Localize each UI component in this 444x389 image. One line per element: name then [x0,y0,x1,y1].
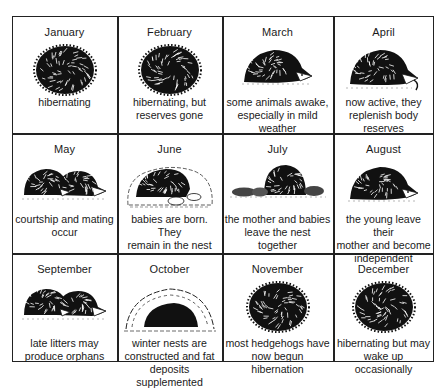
description-line: occur [14,226,115,239]
hedgehog-side-icon [222,44,333,90]
description-line: hibernating but may [335,337,432,350]
month-label: December [333,263,434,275]
description-line: the mother and babies [224,213,331,226]
two-hedgehogs-icon [12,281,117,325]
month-cell-september: September late litters mayproduce orphan… [12,253,117,362]
description-line: mother and become [335,239,432,252]
month-cell-december: December hibernating but maywake up occa… [333,253,434,362]
month-description: hibernating, butreserves gone [119,96,220,122]
month-cell-october: October winter nests areconstructed and … [117,253,222,362]
month-cell-february: February hibernating, butreserves gone [117,16,222,133]
description-line: produce orphans [14,350,115,363]
description-line: winter nests are [119,337,220,350]
description-line: hibernating, but [119,96,220,109]
month-description: courtship and matingoccur [14,213,115,239]
month-label: June [117,143,222,155]
curled-hedgehog-icon [12,44,117,96]
description-line: most hedgehogs have [224,337,331,350]
description-line: some animals awake, [224,96,331,109]
month-cell-april: April now active, theyreplenish bodyrese… [333,16,434,133]
description-line: constructed and fat [119,350,220,363]
month-label: May [12,143,117,155]
month-cell-november: November most hedgehogs havenow begun hi… [222,253,333,362]
month-description: some animals awake,especially in mildwea… [224,96,331,135]
two-hedgehogs-icon [12,161,117,205]
month-label: April [333,26,434,38]
month-description: now active, theyreplenish bodyreserves [335,96,432,135]
month-description: hibernating [14,96,115,109]
month-description: late litters mayproduce orphans [14,337,115,363]
month-description: most hedgehogs havenow begun hibernation [224,337,331,376]
hedgehog-family-icon [222,161,333,205]
month-cell-august: August the young leave theirmother and b… [333,133,434,253]
description-line: deposits supplemented [119,363,220,389]
month-cell-march: March some animals awake,especially in m… [222,16,333,133]
month-label: July [222,143,333,155]
month-label: August [333,143,434,155]
winter-nest-icon [117,281,222,337]
month-cell-may: May courtship and matingoccur [12,133,117,253]
month-cell-july: July the mother and babiesleave the nest… [222,133,333,253]
month-description: the mother and babiesleave the nest toge… [224,213,331,252]
month-description: babies are born. Theyremain in the nest [119,213,220,252]
description-line: now active, they [335,96,432,109]
hedgehog-eating-icon [333,44,434,94]
description-line: wake up occasionally [335,350,432,376]
description-line: replenish body [335,109,432,122]
month-label: February [117,26,222,38]
month-label: November [222,263,333,275]
hedgehog-nest-icon [117,161,222,215]
description-line: late litters may [14,337,115,350]
month-label: October [117,263,222,275]
month-label: January [12,26,117,38]
description-line: especially in mild [224,109,331,122]
month-description: hibernating but maywake up occasionally [335,337,432,376]
description-line: the young leave their [335,213,432,239]
description-line: babies are born. They [119,213,220,239]
description-line: remain in the nest [119,239,220,252]
month-cell-june: June babies are born. Theyremain in the … [117,133,222,253]
curled-hedgehog-icon [333,281,434,333]
hedgehog-side-icon [333,161,434,207]
month-cell-january: January hibernating [12,16,117,133]
description-line: now begun hibernation [224,350,331,376]
description-line: leave the nest together [224,226,331,252]
curled-hedgehog-icon [117,44,222,96]
curled-hedgehog-icon [222,281,333,333]
month-label: March [222,26,333,38]
month-label: September [12,263,117,275]
description-line: reserves gone [119,109,220,122]
month-description: winter nests areconstructed and fatdepos… [119,337,220,389]
description-line: courtship and mating [14,213,115,226]
description-line: hibernating [14,96,115,109]
